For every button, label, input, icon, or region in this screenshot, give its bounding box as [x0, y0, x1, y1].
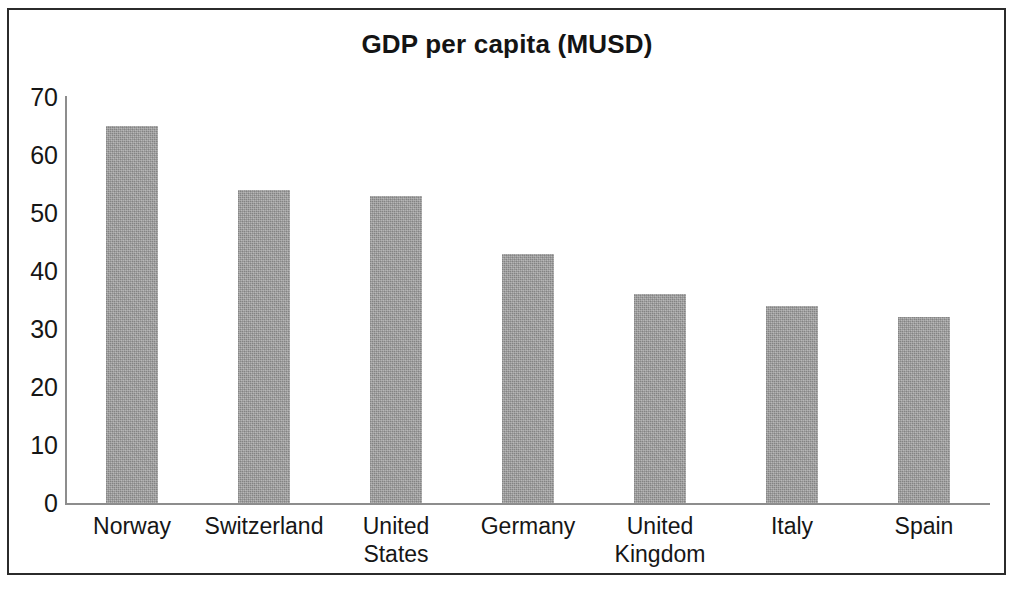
x-axis-tick-label-line: Kingdom: [586, 540, 734, 568]
bar-chart: GDP per capita (MUSD) 010203040506070 No…: [0, 0, 1014, 590]
x-axis-tick-label-line: United: [363, 513, 429, 539]
y-axis-tick-label: 0: [12, 491, 58, 516]
bar[interactable]: [502, 254, 554, 503]
bar-group: [594, 97, 726, 503]
bar-group: [66, 97, 198, 503]
bar[interactable]: [766, 306, 818, 503]
x-axis-tick-label: UnitedStates: [322, 512, 470, 568]
x-axis-tick-label-line: United: [627, 513, 693, 539]
y-axis-tick-label: 70: [12, 85, 58, 110]
bar[interactable]: [634, 294, 686, 503]
x-axis-tick-label: Switzerland: [190, 512, 338, 540]
bar[interactable]: [238, 190, 290, 503]
bar-group: [198, 97, 330, 503]
y-axis-tick-label: 40: [12, 259, 58, 284]
x-axis-tick-label-line: Italy: [771, 513, 813, 539]
x-axis-line: [65, 503, 990, 505]
y-axis-tick-label: 30: [12, 317, 58, 342]
y-axis-tick-label: 10: [12, 433, 58, 458]
bar-group: [858, 97, 990, 503]
bar[interactable]: [898, 317, 950, 503]
x-axis-tick-label: Germany: [454, 512, 602, 540]
x-axis-tick-label-line: States: [322, 540, 470, 568]
x-axis-tick-label: UnitedKingdom: [586, 512, 734, 568]
bar[interactable]: [370, 196, 422, 503]
bar-group: [726, 97, 858, 503]
plot-area: [66, 97, 990, 503]
bar-group: [330, 97, 462, 503]
chart-title: GDP per capita (MUSD): [0, 29, 1014, 60]
y-axis-tick-label: 20: [12, 375, 58, 400]
y-axis-tick-labels: 010203040506070: [8, 0, 58, 590]
x-axis-tick-label-line: Spain: [895, 513, 954, 539]
x-axis-tick-label: Italy: [718, 512, 866, 540]
x-axis-tick-label-line: Switzerland: [205, 513, 324, 539]
y-axis-tick-label: 50: [12, 201, 58, 226]
y-axis-tick-label: 60: [12, 143, 58, 168]
bar[interactable]: [106, 126, 158, 503]
bar-group: [462, 97, 594, 503]
x-axis-tick-label-line: Germany: [481, 513, 576, 539]
x-axis-tick-label-line: Norway: [93, 513, 171, 539]
x-axis-tick-labels: NorwaySwitzerlandUnitedStatesGermanyUnit…: [66, 512, 990, 582]
x-axis-tick-label: Spain: [850, 512, 998, 540]
x-axis-tick-label: Norway: [58, 512, 206, 540]
